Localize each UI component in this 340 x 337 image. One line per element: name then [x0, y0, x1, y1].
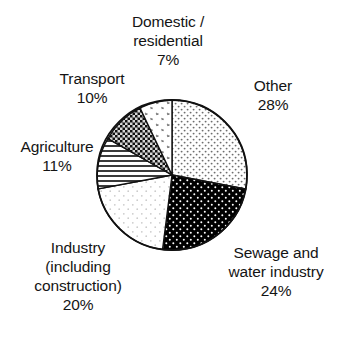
slice-value-other: 28%	[223, 95, 323, 114]
slice-label-sewage-line2: water industry	[212, 262, 340, 281]
slice-label-industry-line3: construction)	[16, 276, 140, 295]
slice-value-domestic: 7%	[98, 50, 238, 69]
slice-label-other: Other 28%	[223, 76, 323, 114]
slice-label-other-line1: Other	[223, 76, 323, 95]
slice-label-industry: Industry (including construction) 20%	[16, 238, 140, 314]
slice-label-agriculture: Agriculture 11%	[2, 137, 112, 175]
slice-value-industry: 20%	[16, 295, 140, 314]
slice-label-domestic-line2: residential	[98, 31, 238, 50]
pie-chart-figure: Domestic / residential 7% Transport 10% …	[0, 0, 340, 337]
slice-label-sewage: Sewage and water industry 24%	[212, 243, 340, 300]
slice-label-domestic: Domestic / residential 7%	[98, 12, 238, 69]
slice-value-sewage: 24%	[212, 281, 340, 300]
slice-label-transport: Transport 10%	[32, 69, 152, 107]
slice-label-industry-line1: Industry	[16, 238, 140, 257]
slice-label-industry-line2: (including	[16, 257, 140, 276]
slice-value-transport: 10%	[32, 88, 152, 107]
slice-label-agriculture-line1: Agriculture	[2, 137, 112, 156]
slice-label-transport-line1: Transport	[32, 69, 152, 88]
pie-slice-sewage	[163, 175, 246, 250]
slice-label-domestic-line1: Domestic /	[98, 12, 238, 31]
slice-label-sewage-line1: Sewage and	[212, 243, 340, 262]
slice-value-agriculture: 11%	[2, 156, 112, 175]
